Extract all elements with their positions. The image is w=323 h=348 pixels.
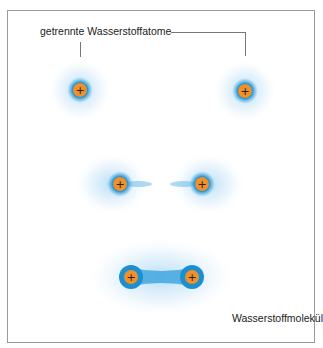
molecule-label: Wasserstoffmolekül	[232, 312, 323, 324]
svg-text:+: +	[240, 85, 249, 98]
svg-text:+: +	[197, 178, 206, 191]
svg-text:+: +	[126, 271, 135, 284]
svg-text:+: +	[187, 271, 196, 284]
hydrogen-molecule: + +	[89, 239, 233, 315]
svg-text:+: +	[75, 84, 84, 97]
separated-atom-right: +	[214, 60, 276, 122]
approaching-atom-right: +	[170, 154, 244, 214]
svg-text:+: +	[115, 178, 124, 191]
separated-atom-left: +	[49, 59, 111, 121]
approaching-atom-left: +	[76, 154, 152, 214]
